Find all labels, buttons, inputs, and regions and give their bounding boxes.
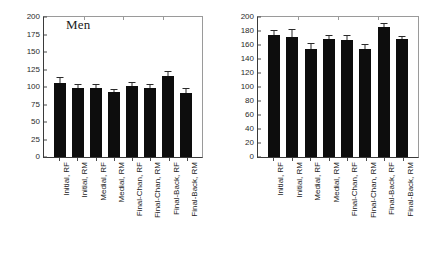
bar-slot [338,17,356,157]
y-tick-mark [44,104,47,105]
y-tick-mark [258,143,261,144]
x-label-slot: Initial, RM [68,162,86,244]
x-tick-mark [169,158,170,161]
x-tick-mark [347,158,348,161]
x-label-slot: Medial, RM [320,162,339,244]
error-bar-cap [380,23,387,24]
bar [90,88,102,157]
x-tick-mark [150,158,151,161]
x-tick-mark [366,158,367,161]
bar [126,86,138,157]
y-tick-label: 25 [31,136,44,144]
error-bar-cap [93,84,100,85]
y-tick-mark [258,59,261,60]
x-label-slot: Medial, RF [87,162,105,244]
error-bar [292,29,293,37]
y-tick-label: 40 [245,125,258,133]
y-tick-mark [258,73,261,74]
error-bar-cap [75,84,82,85]
error-bar-cap [111,89,118,90]
y-tick-mark [258,87,261,88]
bar [108,92,120,157]
y-tick-label: 175 [27,31,44,39]
y-tick-label: 160 [241,41,258,49]
y-tick-mark [44,87,47,88]
bar-slot [159,17,177,157]
bar-slot [302,17,320,157]
bar [286,37,298,157]
x-tick-mark [59,158,60,161]
chart-panel-women: 020406080100120140160180200 Women Initia… [215,0,431,253]
x-tick-label: Final-Back, RM [191,162,199,217]
bar-slot [375,17,393,157]
y-tick-mark [44,157,47,158]
chart-panel-men: 0255075100125150175200 Men Initial, RFIn… [0,0,215,253]
bar [54,83,66,157]
bar-slot [141,17,159,157]
y-tick-mark [44,122,47,123]
bar-slot [393,17,411,157]
y-tick-mark [44,52,47,53]
bar-slot [69,17,87,157]
x-label-slot: Medial, RF [301,162,320,244]
top-frame-tick [298,17,299,20]
plot-area-men: 0255075100125150175200 [43,16,203,158]
bar [305,49,317,158]
error-bar-cap [362,44,369,45]
y-tick-mark [44,69,47,70]
x-label-slot: Final-Chan, RF [123,162,141,244]
x-tick-mark [292,158,293,161]
y-tick-mark [258,101,261,102]
y-tick-label: 80 [245,97,258,105]
bar-slot [105,17,123,157]
bar-slot [265,17,283,157]
x-tick-mark [132,158,133,161]
y-tick-mark [258,157,261,158]
x-axis-labels-men: Initial, RFInitial, RMMedial, RFMedial, … [43,162,203,244]
y-tick-label: 100 [27,83,44,91]
y-tick-label: 20 [245,139,258,147]
y-tick-label: 140 [241,55,258,63]
y-tick-label: 100 [241,83,258,91]
y-tick-mark [258,129,261,130]
x-tick-mark [114,158,115,161]
top-frame-tick [378,17,379,20]
figure-root: 0255075100125150175200 Men Initial, RFIn… [0,0,431,253]
bar-slot [87,17,105,157]
error-bar-cap [183,88,190,89]
error-bar-cap [307,43,314,44]
top-frame-tick [338,17,339,20]
top-frame-tick [123,17,124,20]
error-bar-cap [165,71,172,72]
x-tick-mark [310,158,311,161]
x-tick-mark [329,158,330,161]
bar-slot [356,17,374,157]
plot-area-women: 020406080100120140160180200 [257,16,419,158]
y-tick-mark [44,139,47,140]
bar-slot [320,17,338,157]
bar [378,27,390,157]
error-bar-cap [129,82,136,83]
x-axis-labels-women: Initial, RFInitial, RMMedial, RFMedial, … [257,162,419,244]
bar-slot [123,17,141,157]
bar-group-men [44,17,202,157]
y-tick-label: 0 [36,153,44,161]
y-tick-mark [258,115,261,116]
x-label-slot: Final-Back, RF [160,162,178,244]
x-label-slot: Final-Back, RM [394,162,413,244]
x-label-slot: Initial, RF [264,162,283,244]
y-tick-label: 0 [250,153,258,161]
x-label-slot: Final-Chan, RF [338,162,357,244]
bar-slot [51,17,69,157]
y-tick-mark [258,31,261,32]
bar [268,35,280,157]
bar [341,40,353,157]
y-tick-label: 200 [241,13,258,21]
x-label-slot: Final-Chan, RM [357,162,376,244]
y-tick-label: 200 [27,13,44,21]
x-label-slot: Initial, RF [50,162,68,244]
y-tick-mark [44,34,47,35]
x-label-slot: Final-Back, RF [375,162,394,244]
x-label-slot: Initial, RM [283,162,302,244]
error-bar-cap [57,77,64,78]
